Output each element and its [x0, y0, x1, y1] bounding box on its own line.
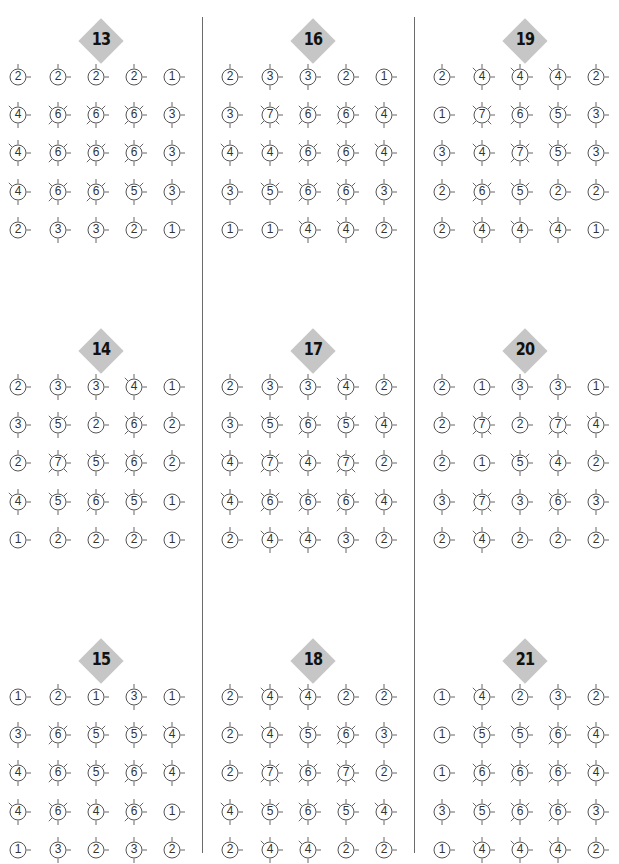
sun-cell[interactable]: 2 [369, 525, 399, 555]
sun-cell[interactable]: 7 [543, 410, 573, 440]
sun-cell[interactable]: 1 [427, 682, 457, 712]
sun-cell[interactable]: 5 [505, 177, 535, 207]
sun-cell[interactable]: 7 [505, 138, 535, 168]
sun-cell[interactable]: 6 [81, 138, 111, 168]
sun-cell[interactable]: 2 [581, 835, 611, 864]
sun-cell[interactable]: 3 [427, 138, 457, 168]
sun-cell[interactable]: 1 [467, 448, 497, 478]
sun-cell[interactable]: 6 [543, 797, 573, 827]
sun-cell[interactable]: 4 [369, 487, 399, 517]
sun-cell[interactable]: 6 [119, 138, 149, 168]
sun-cell[interactable]: 1 [581, 215, 611, 245]
sun-cell[interactable]: 4 [3, 487, 33, 517]
sun-cell[interactable]: 1 [467, 372, 497, 402]
sun-cell[interactable]: 2 [427, 62, 457, 92]
sun-cell[interactable]: 6 [293, 487, 323, 517]
sun-cell[interactable]: 2 [81, 62, 111, 92]
sun-cell[interactable]: 4 [119, 372, 149, 402]
sun-cell[interactable]: 4 [543, 62, 573, 92]
sun-cell[interactable]: 6 [255, 487, 285, 517]
sun-cell[interactable]: 4 [215, 448, 245, 478]
sun-cell[interactable]: 2 [505, 525, 535, 555]
sun-cell[interactable]: 2 [369, 215, 399, 245]
sun-cell[interactable]: 5 [43, 487, 73, 517]
sun-cell[interactable]: 3 [427, 797, 457, 827]
sun-cell[interactable]: 4 [81, 797, 111, 827]
sun-cell[interactable]: 1 [157, 525, 187, 555]
sun-cell[interactable]: 2 [81, 835, 111, 864]
sun-cell[interactable]: 2 [81, 525, 111, 555]
sun-cell[interactable]: 1 [427, 758, 457, 788]
sun-cell[interactable]: 2 [581, 682, 611, 712]
sun-cell[interactable]: 1 [157, 487, 187, 517]
sun-cell[interactable]: 4 [3, 100, 33, 130]
sun-cell[interactable]: 2 [369, 758, 399, 788]
sun-cell[interactable]: 6 [467, 177, 497, 207]
sun-cell[interactable]: 2 [427, 448, 457, 478]
sun-cell[interactable]: 5 [467, 720, 497, 750]
sun-cell[interactable]: 3 [43, 835, 73, 864]
sun-cell[interactable]: 2 [119, 525, 149, 555]
sun-cell[interactable]: 6 [505, 100, 535, 130]
sun-cell[interactable]: 4 [293, 525, 323, 555]
sun-cell[interactable]: 1 [157, 62, 187, 92]
sun-cell[interactable]: 3 [43, 215, 73, 245]
sun-cell[interactable]: 2 [157, 410, 187, 440]
sun-cell[interactable]: 6 [505, 758, 535, 788]
sun-cell[interactable]: 5 [293, 720, 323, 750]
sun-cell[interactable]: 2 [543, 177, 573, 207]
sun-cell[interactable]: 2 [331, 62, 361, 92]
sun-cell[interactable]: 3 [369, 720, 399, 750]
sun-cell[interactable]: 3 [255, 62, 285, 92]
sun-cell[interactable]: 3 [369, 177, 399, 207]
sun-cell[interactable]: 4 [255, 682, 285, 712]
sun-cell[interactable]: 2 [581, 177, 611, 207]
sun-cell[interactable]: 2 [427, 215, 457, 245]
sun-cell[interactable]: 4 [467, 138, 497, 168]
sun-cell[interactable]: 4 [157, 720, 187, 750]
sun-cell[interactable]: 4 [3, 797, 33, 827]
sun-cell[interactable]: 7 [255, 448, 285, 478]
sun-cell[interactable]: 7 [467, 410, 497, 440]
sun-cell[interactable]: 6 [543, 487, 573, 517]
sun-cell[interactable]: 4 [467, 62, 497, 92]
sun-cell[interactable]: 6 [43, 720, 73, 750]
sun-cell[interactable]: 4 [467, 835, 497, 864]
sun-cell[interactable]: 3 [215, 177, 245, 207]
sun-cell[interactable]: 7 [255, 100, 285, 130]
sun-cell[interactable]: 6 [119, 410, 149, 440]
sun-cell[interactable]: 2 [81, 410, 111, 440]
sun-cell[interactable]: 5 [119, 177, 149, 207]
sun-cell[interactable]: 4 [543, 448, 573, 478]
sun-cell[interactable]: 6 [543, 758, 573, 788]
sun-cell[interactable]: 5 [43, 410, 73, 440]
sun-cell[interactable]: 4 [255, 525, 285, 555]
sun-cell[interactable]: 6 [119, 797, 149, 827]
sun-cell[interactable]: 2 [215, 525, 245, 555]
sun-cell[interactable]: 7 [255, 758, 285, 788]
sun-cell[interactable]: 1 [369, 62, 399, 92]
sun-cell[interactable]: 1 [3, 835, 33, 864]
sun-cell[interactable]: 4 [331, 215, 361, 245]
sun-cell[interactable]: 4 [255, 835, 285, 864]
sun-cell[interactable]: 1 [427, 720, 457, 750]
sun-cell[interactable]: 3 [505, 372, 535, 402]
sun-cell[interactable]: 2 [3, 215, 33, 245]
sun-cell[interactable]: 2 [369, 682, 399, 712]
sun-cell[interactable]: 5 [255, 797, 285, 827]
sun-cell[interactable]: 4 [255, 138, 285, 168]
sun-cell[interactable]: 3 [293, 62, 323, 92]
sun-cell[interactable]: 6 [293, 410, 323, 440]
sun-cell[interactable]: 3 [157, 177, 187, 207]
sun-cell[interactable]: 2 [215, 720, 245, 750]
sun-cell[interactable]: 3 [293, 372, 323, 402]
sun-cell[interactable]: 2 [119, 215, 149, 245]
sun-cell[interactable]: 3 [331, 525, 361, 555]
sun-cell[interactable]: 2 [215, 835, 245, 864]
sun-cell[interactable]: 4 [215, 138, 245, 168]
sun-cell[interactable]: 1 [427, 100, 457, 130]
sun-cell[interactable]: 2 [543, 525, 573, 555]
sun-cell[interactable]: 5 [81, 758, 111, 788]
sun-cell[interactable]: 4 [293, 448, 323, 478]
sun-cell[interactable]: 3 [505, 487, 535, 517]
